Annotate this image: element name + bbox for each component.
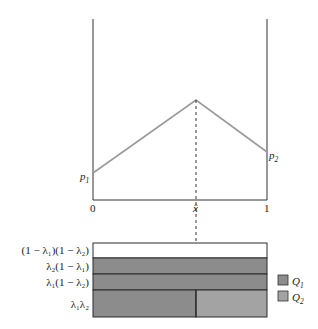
x-tick-1: 1	[264, 202, 270, 214]
row-split-q1	[93, 290, 196, 317]
x-tick-0: 0	[90, 202, 96, 214]
legend-swatch-q1	[278, 275, 288, 285]
legend: Q1 Q2	[278, 275, 304, 306]
x-tick-xhat: x̂	[192, 202, 198, 214]
row-q1-a	[93, 258, 267, 274]
price-curve	[93, 100, 267, 173]
stacked-bar	[93, 243, 267, 317]
row-white	[93, 243, 267, 258]
row-q1-b	[93, 274, 267, 290]
row-label-0: (1 − λ₁)(1 − λ₂)	[22, 244, 90, 257]
row-label-1: λ₂(1 − λ₁)	[46, 260, 89, 273]
row-label-3: λ₁λ₂	[71, 298, 90, 310]
legend-swatch-q2	[278, 291, 288, 301]
legend-label-q1: Q1	[292, 275, 304, 290]
row-split-q2	[196, 290, 267, 317]
legend-label-q2: Q2	[292, 291, 304, 306]
p2-label: p2	[268, 149, 279, 164]
row-label-2: λ₁(1 − λ₂)	[46, 276, 89, 289]
diagram: p1 p2 0 x̂ 1 (1 − λ₁)(1 − λ₂) λ₂(1 − λ₁)…	[0, 0, 318, 329]
p1-label: p1	[79, 170, 89, 185]
